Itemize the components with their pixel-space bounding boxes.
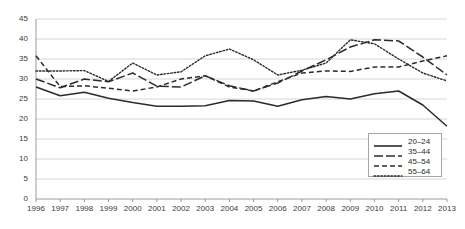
legend-label: 20–24 [408, 137, 430, 147]
y-tick-label: 45 [8, 15, 28, 23]
legend-label: 55–64 [408, 167, 430, 177]
y-tick-label: 10 [8, 155, 28, 163]
series-line-35-44 [36, 40, 447, 91]
legend-item: 20–24 [373, 137, 430, 147]
legend-swatch-55–64 [373, 167, 403, 177]
data-series-group [36, 40, 447, 126]
legend-item: 35–44 [373, 147, 430, 157]
series-line-20-24 [36, 87, 447, 126]
x-tick-label: 2013 [433, 205, 461, 213]
y-tick-label: 40 [8, 35, 28, 43]
legend-item: 45–54 [373, 157, 430, 167]
y-tick-label: 15 [8, 135, 28, 143]
y-tick-label: 30 [8, 75, 28, 83]
legend-swatch-35–44 [373, 147, 403, 157]
y-tick-label: 35 [8, 55, 28, 63]
legend-swatch-20–24 [373, 137, 403, 147]
legend-swatch-45–54 [373, 157, 403, 167]
y-tick-label: 20 [8, 115, 28, 123]
chart-legend: 20–2435–4445–5455–64 [368, 133, 442, 177]
series-line-55-64 [36, 40, 447, 82]
legend-item: 55–64 [373, 167, 430, 177]
series-line-45-54 [36, 56, 447, 91]
y-tick-label: 25 [8, 95, 28, 103]
y-tick-label: 0 [8, 195, 28, 203]
legend-label: 45–54 [408, 157, 430, 167]
y-tick-label: 5 [8, 175, 28, 183]
line-chart: 051015202530354045 199619971998199920002… [0, 0, 465, 229]
legend-label: 35–44 [408, 147, 430, 157]
plot-area [0, 0, 465, 229]
